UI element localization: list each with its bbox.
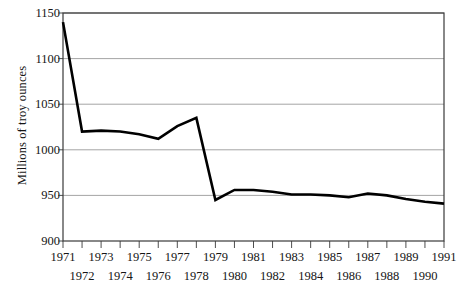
x-tick-label-1987: 1987 xyxy=(355,250,380,265)
x-tick-label-1974: 1974 xyxy=(108,269,133,284)
x-tick-label-1990: 1990 xyxy=(412,269,437,284)
x-tick-label-1989: 1989 xyxy=(393,250,418,265)
x-tick-label-1991: 1991 xyxy=(432,250,457,265)
x-tick-label-1986: 1986 xyxy=(336,269,361,284)
x-tick-label-1976: 1976 xyxy=(146,269,171,284)
x-tick-label-1982: 1982 xyxy=(260,269,285,284)
x-tick-label-1981: 1981 xyxy=(241,250,266,265)
x-tick-label-1978: 1978 xyxy=(184,269,209,284)
plot-frame xyxy=(63,13,444,241)
x-tick-label-1985: 1985 xyxy=(317,250,342,265)
x-tick-label-1980: 1980 xyxy=(222,269,247,284)
x-tick-label-1973: 1973 xyxy=(89,250,114,265)
x-tick-label-1983: 1983 xyxy=(279,250,304,265)
line-chart-figure: Millions of troy ounces 9009501000105011… xyxy=(0,0,457,304)
x-tick-label-1975: 1975 xyxy=(127,250,152,265)
x-tick-label-1984: 1984 xyxy=(298,269,323,284)
x-tick-label-1977: 1977 xyxy=(165,250,190,265)
x-tick-label-1971: 1971 xyxy=(51,250,76,265)
x-tick-label-1972: 1972 xyxy=(70,269,95,284)
gridlines xyxy=(63,13,444,195)
x-tick-label-1979: 1979 xyxy=(203,250,228,265)
data-series-line xyxy=(63,22,444,203)
x-tick-label-1988: 1988 xyxy=(374,269,399,284)
